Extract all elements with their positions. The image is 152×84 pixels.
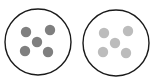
dot-group-right-circle [83, 10, 149, 76]
dot-right-circle-4 [98, 47, 108, 57]
dot-left-circle-3 [32, 37, 42, 47]
stimulus-canvas [0, 0, 152, 84]
dot-left-circle-4 [20, 46, 30, 56]
dot-pattern-figure [0, 0, 152, 84]
dot-right-circle-5 [121, 48, 131, 58]
dot-right-circle-1 [99, 28, 109, 38]
dot-right-circle-3 [110, 38, 120, 48]
dot-left-circle-1 [21, 27, 31, 37]
dot-left-circle-5 [43, 47, 53, 57]
dot-right-circle-2 [123, 26, 133, 36]
dot-left-circle-2 [45, 25, 55, 35]
dot-group-left-circle [5, 9, 71, 75]
